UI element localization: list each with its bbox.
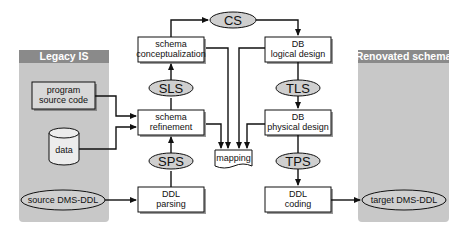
svg-text:TLS: TLS: [286, 81, 310, 96]
db-physical-design-box: DB physical design: [265, 110, 333, 137]
diagram-canvas: Legacy IS Renovated schema program sourc…: [0, 0, 469, 236]
svg-text:schema: schema: [155, 39, 187, 49]
source-dms-ddl-ellipse: source DMS-DDL: [21, 190, 105, 210]
svg-text:DB: DB: [292, 39, 305, 49]
svg-text:TPS: TPS: [285, 154, 311, 169]
svg-text:logical design: logical design: [271, 49, 326, 59]
svg-text:DDL: DDL: [162, 189, 180, 199]
sps-ellipse: SPS: [149, 153, 193, 169]
legacy-is-title: Legacy IS: [39, 50, 88, 62]
svg-text:parsing: parsing: [156, 199, 186, 209]
svg-text:program: program: [47, 85, 81, 95]
sls-ellipse: SLS: [149, 80, 193, 96]
svg-text:mapping: mapping: [216, 153, 251, 163]
target-dms-ddl-ellipse: target DMS-DDL: [362, 190, 446, 210]
schema-refinement-box: schema refinement: [138, 110, 206, 137]
renovated-schema-title: Renovated schema: [356, 50, 452, 62]
svg-text:refinement: refinement: [150, 122, 193, 132]
tls-ellipse: TLS: [276, 80, 320, 96]
db-logical-design-box: DB logical design: [265, 37, 333, 64]
svg-text:source DMS-DDL: source DMS-DDL: [28, 195, 99, 205]
svg-text:SLS: SLS: [159, 81, 184, 96]
mapping-document: mapping: [215, 150, 252, 168]
schema-conceptualization-box: schema conceptualization: [136, 37, 206, 64]
svg-text:physical design: physical design: [267, 122, 329, 132]
svg-text:schema: schema: [155, 112, 187, 122]
cs-ellipse: CS: [210, 12, 256, 28]
svg-text:DB: DB: [292, 112, 305, 122]
ddl-parsing-box: DDL parsing: [138, 187, 206, 214]
svg-text:CS: CS: [224, 13, 242, 28]
svg-text:conceptualization: conceptualization: [136, 49, 206, 59]
svg-text:SPS: SPS: [158, 154, 184, 169]
svg-text:DDL: DDL: [289, 189, 307, 199]
svg-text:source code: source code: [39, 95, 88, 105]
data-cylinder-icon: data: [49, 128, 79, 165]
svg-text:data: data: [55, 145, 73, 155]
svg-text:coding: coding: [285, 199, 312, 209]
svg-text:target DMS-DDL: target DMS-DDL: [371, 195, 438, 205]
program-source-code-box: program source code: [32, 82, 97, 111]
ddl-coding-box: DDL coding: [265, 187, 333, 214]
tps-ellipse: TPS: [276, 153, 320, 169]
